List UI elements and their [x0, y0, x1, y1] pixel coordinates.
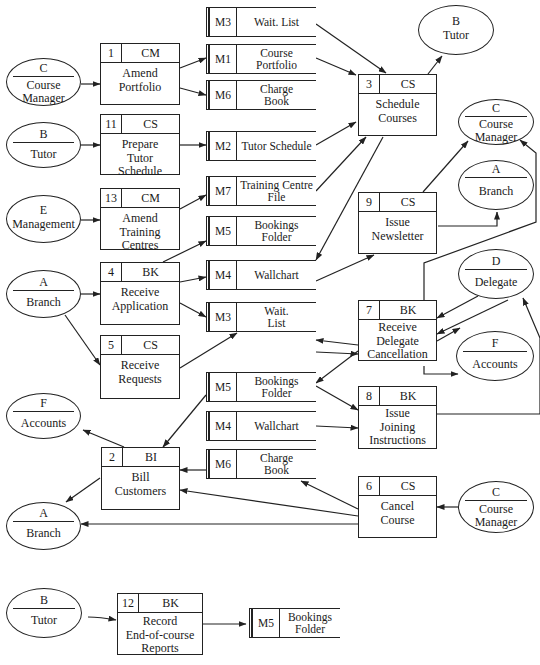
- store-name: Wait. List: [237, 303, 316, 331]
- process-id: 6: [359, 477, 380, 495]
- process-name: Schedule Courses: [359, 94, 436, 125]
- store-name: Bookings Folder: [280, 609, 340, 637]
- process-id: 5: [101, 336, 122, 354]
- process-name: Prepare Tutor Schedule: [101, 134, 179, 179]
- external-name: Branch: [7, 522, 80, 540]
- process-id: 4: [101, 263, 122, 281]
- process-id: 3: [359, 75, 380, 93]
- external-id: B: [425, 14, 487, 29]
- external-name: Delegate: [459, 270, 533, 289]
- process-owner: CS: [122, 115, 179, 133]
- process-owner: BK: [380, 301, 436, 319]
- process-name: Record End-of-course Reports: [118, 613, 202, 656]
- store-name: Tutor Schedule: [237, 132, 316, 160]
- store-m6-charge-book-2[interactable]: M6 Charge Book: [206, 449, 316, 479]
- process-12-record-end-of-course-reports[interactable]: 12BK Record End-of-course Reports: [117, 593, 203, 655]
- external-id: C: [465, 485, 527, 501]
- external-f-accounts-2[interactable]: F Accounts: [456, 331, 534, 381]
- store-id: M6: [208, 81, 237, 109]
- store-m2-tutor-schedule[interactable]: M2 Tutor Schedule: [206, 131, 316, 161]
- process-3-schedule-courses[interactable]: 3CS Schedule Courses: [358, 74, 437, 136]
- external-a-branch-2[interactable]: A Branch: [6, 502, 81, 550]
- process-2-bill-customers[interactable]: 2BI Bill Customers: [101, 447, 180, 510]
- external-b-tutor-2[interactable]: B Tutor: [418, 5, 494, 55]
- store-name: Charge Book: [237, 81, 316, 109]
- store-name: Course Portfolio: [237, 45, 316, 73]
- store-m7-training-centre-file[interactable]: M7 Training Centre File: [206, 176, 316, 206]
- process-name: Amend Training Centres: [101, 208, 179, 253]
- external-name: Tutor: [419, 29, 493, 42]
- process-name: Amend Portfolio: [101, 63, 179, 94]
- external-c-course-manager[interactable]: C Course Manager: [6, 58, 81, 106]
- process-name: Cancel Course: [359, 496, 436, 527]
- store-m5-bookings-folder-2[interactable]: M5 Bookings Folder: [206, 372, 316, 402]
- external-a-branch-3[interactable]: A Branch: [458, 160, 534, 210]
- store-id: M3: [208, 303, 237, 331]
- external-b-tutor-3[interactable]: B Tutor: [6, 588, 82, 638]
- external-a-branch[interactable]: A Branch: [6, 270, 81, 318]
- external-name: Branch: [459, 178, 533, 198]
- external-name: Course Manager: [459, 501, 533, 529]
- store-id: M5: [208, 217, 237, 245]
- store-name: Bookings Folder: [237, 217, 316, 245]
- store-name: Wallchart: [237, 412, 316, 440]
- process-id: 1: [101, 44, 122, 62]
- process-name: Receive Requests: [101, 355, 179, 386]
- external-id: B: [13, 127, 74, 143]
- external-f-accounts[interactable]: F Accounts: [6, 393, 81, 439]
- external-id: C: [465, 101, 527, 117]
- external-name: Accounts: [7, 412, 80, 430]
- external-id: A: [13, 275, 74, 291]
- store-id: M4: [208, 412, 237, 440]
- process-owner: CS: [380, 75, 436, 93]
- store-id: M5: [208, 373, 237, 401]
- process-8-issue-joining-instructions[interactable]: 8BK Issue Joining Instructions: [358, 386, 437, 449]
- store-m1-course-portfolio[interactable]: M1 Course Portfolio: [206, 44, 316, 74]
- process-owner: CS: [380, 193, 436, 211]
- external-d-delegate[interactable]: D Delegate: [458, 249, 534, 299]
- store-id: M1: [208, 45, 237, 73]
- process-name: Receive Application: [101, 282, 179, 313]
- store-m5-bookings-folder[interactable]: M5 Bookings Folder: [206, 216, 316, 246]
- process-13-amend-training-centres[interactable]: 13CM Amend Training Centres: [100, 188, 180, 250]
- process-11-prepare-tutor-schedule[interactable]: 11CS Prepare Tutor Schedule: [100, 114, 180, 175]
- process-owner: BK: [139, 594, 202, 612]
- process-owner: CS: [122, 336, 179, 354]
- external-c-course-manager-3[interactable]: C Course Manager: [458, 481, 534, 533]
- process-name: Receive Delegate Cancellation: [359, 320, 436, 362]
- store-id: M2: [208, 132, 237, 160]
- external-b-tutor[interactable]: B Tutor: [6, 122, 81, 168]
- process-id: 12: [118, 594, 139, 612]
- store-name: Charge Book: [237, 450, 316, 478]
- store-m5-bookings-folder-3[interactable]: M5 Bookings Folder: [249, 608, 340, 638]
- process-id: 2: [102, 448, 123, 466]
- process-owner: BI: [123, 448, 179, 466]
- process-5-receive-requests[interactable]: 5CS Receive Requests: [100, 335, 180, 399]
- external-name: Accounts: [457, 352, 533, 371]
- store-m3-wait-list[interactable]: M3 Wait. List: [206, 7, 316, 37]
- store-m4-wallchart-2[interactable]: M4 Wallchart: [206, 411, 316, 441]
- process-9-issue-newsletter[interactable]: 9CS Issue Newsletter: [358, 192, 437, 254]
- process-owner: CM: [122, 44, 179, 62]
- external-name: Management: [7, 218, 80, 231]
- store-m6-charge-book[interactable]: M6 Charge Book: [206, 80, 316, 110]
- process-6-cancel-course[interactable]: 6CS Cancel Course: [358, 476, 437, 538]
- external-id: A: [13, 506, 74, 522]
- external-id: C: [13, 61, 74, 77]
- external-c-course-manager-2[interactable]: C Course Manager: [458, 99, 534, 145]
- external-id: F: [13, 396, 74, 412]
- store-name: Wallchart: [237, 261, 316, 289]
- external-id: E: [13, 203, 74, 218]
- store-id: M6: [208, 450, 237, 478]
- store-id: M4: [208, 261, 237, 289]
- external-id: A: [465, 162, 527, 178]
- store-m3-wait-list-2[interactable]: M3 Wait. List: [206, 302, 316, 332]
- external-e-management[interactable]: E Management: [6, 195, 81, 243]
- process-7-receive-delegate-cancellation[interactable]: 7BK Receive Delegate Cancellation: [358, 300, 437, 361]
- external-id: B: [13, 593, 75, 609]
- process-1-amend-portfolio[interactable]: 1CM Amend Portfolio: [100, 43, 180, 105]
- store-name: Bookings Folder: [237, 373, 316, 401]
- external-name: Branch: [7, 291, 80, 309]
- process-4-receive-application[interactable]: 4BK Receive Application: [100, 262, 180, 325]
- store-m4-wallchart[interactable]: M4 Wallchart: [206, 260, 316, 290]
